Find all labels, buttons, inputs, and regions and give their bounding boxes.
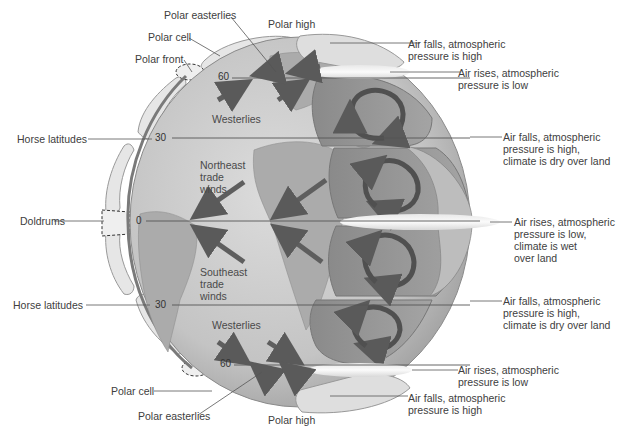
cloud-equator [340,214,500,230]
label-polar-cell-bottom: Polar cell [111,385,154,397]
label-doldrums: Doldrums [20,215,65,227]
label-right-60s-low: Air rises, atmospheric pressure is low [458,364,559,388]
doldrums-gap [102,210,130,236]
lat-label-30n: 30 [155,132,166,143]
label-polar-front: Polar front [135,53,183,65]
lat-label-eq: 0 [136,215,142,226]
label-southeast-trade-winds: Southeast trade winds [200,266,247,302]
label-horse-latitudes-north: Horse latitudes [17,133,87,145]
label-right-60n-low: Air rises, atmospheric pressure is low [458,67,559,91]
label-northeast-trade-winds: Northeast trade winds [200,159,246,195]
label-right-polar-high-south: Air falls, atmospheric pressure is high [408,392,505,416]
label-right-30s-high: Air falls, atmospheric pressure is high,… [503,295,610,331]
label-westerlies-north: Westerlies [212,113,261,125]
label-polar-easterlies-top: Polar easterlies [164,9,236,21]
label-polar-high-top: Polar high [268,18,315,30]
hadley-cell-north-left [106,144,134,214]
lat-label-60s: 60 [220,358,231,369]
label-right-equator-low: Air rises, atmospheric pressure is low, … [514,216,615,264]
label-right-polar-high-north: Air falls, atmospheric pressure is high [408,38,505,62]
lat-label-60n: 60 [218,71,229,82]
label-polar-cell-top: Polar cell [148,31,191,43]
lat-label-30s: 30 [155,299,166,310]
label-horse-latitudes-south: Horse latitudes [13,299,83,311]
label-right-30n-high: Air falls, atmospheric pressure is high,… [503,131,610,167]
label-westerlies-south: Westerlies [212,319,261,331]
label-polar-easterlies-bottom: Polar easterlies [138,410,210,422]
label-polar-high-bottom: Polar high [268,414,315,426]
